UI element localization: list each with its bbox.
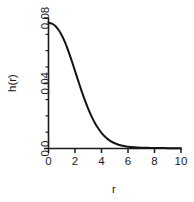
x-tick-label: 8: [151, 155, 157, 167]
x-tick-label: 6: [125, 155, 131, 167]
y-axis-title: h(r): [6, 74, 18, 92]
x-tick-label: 10: [175, 155, 188, 167]
chart-background: [0, 0, 194, 202]
chart-figure: 0.00.040.08 0246810 h(r) r: [0, 0, 194, 202]
x-tick-label: 2: [72, 155, 78, 167]
x-tick-label: 0: [45, 155, 51, 167]
x-tick-label: 4: [98, 155, 105, 167]
x-axis-title: r: [112, 183, 116, 195]
plot-area: 0.00.040.08 0246810 h(r) r: [0, 0, 194, 202]
